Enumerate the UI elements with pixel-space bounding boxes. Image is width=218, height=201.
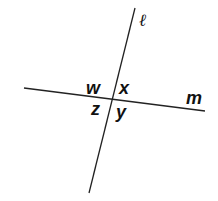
angle-label-z: z	[90, 99, 100, 119]
angle-label-y: y	[115, 102, 127, 122]
angle-label-x: x	[118, 78, 130, 98]
label-line-l: ℓ	[139, 11, 146, 30]
angle-label-w: w	[86, 78, 101, 98]
label-line-m: m	[186, 88, 202, 108]
diagram-canvas: ℓ m w x z y	[0, 0, 218, 201]
